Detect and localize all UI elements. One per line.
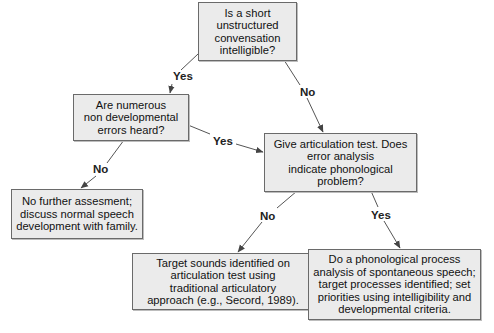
node-text: Is a short unstructured convensation int… — [203, 7, 292, 57]
edge-label-q2-q3: Yes — [213, 135, 233, 147]
node-text: Are numerous non developmental errors he… — [84, 99, 179, 136]
edge-label-q3-r2: No — [260, 210, 275, 222]
node-nondevelopmental-errors-question: Are numerous non developmental errors he… — [73, 94, 189, 141]
node-text: Give articulation test. Does error analy… — [274, 138, 408, 188]
edge-q2-q3 — [188, 125, 210, 134]
edge-q3-r2 — [277, 191, 297, 208]
edge-label-q1-q2: Yes — [173, 70, 193, 82]
edge-q2-r1 — [107, 140, 124, 163]
node-no-further-assessment: No further assesment; discuss normal spe… — [11, 189, 143, 239]
node-text: Target sounds identified on articulation… — [147, 257, 299, 307]
edge-label-q1-q3: No — [300, 86, 315, 98]
edge-q1-q3 — [284, 60, 300, 85]
edge-label-q2-r1: No — [93, 163, 108, 175]
edge-q1-q2 — [181, 54, 198, 70]
edge-q3-r3 — [371, 191, 378, 207]
node-phonological-process-analysis: Do a phonological process analysis of sp… — [308, 249, 481, 320]
node-target-sounds-identified: Target sounds identified on articulation… — [132, 253, 314, 310]
node-intelligibility-question: Is a short unstructured convensation int… — [198, 2, 297, 61]
node-text: No further assesment; discuss normal spe… — [16, 195, 138, 232]
node-text: Do a phonological process analysis of sp… — [313, 253, 475, 315]
node-articulation-test-question: Give articulation test. Does error analy… — [264, 133, 417, 192]
edge-label-q3-r3: Yes — [371, 209, 391, 221]
